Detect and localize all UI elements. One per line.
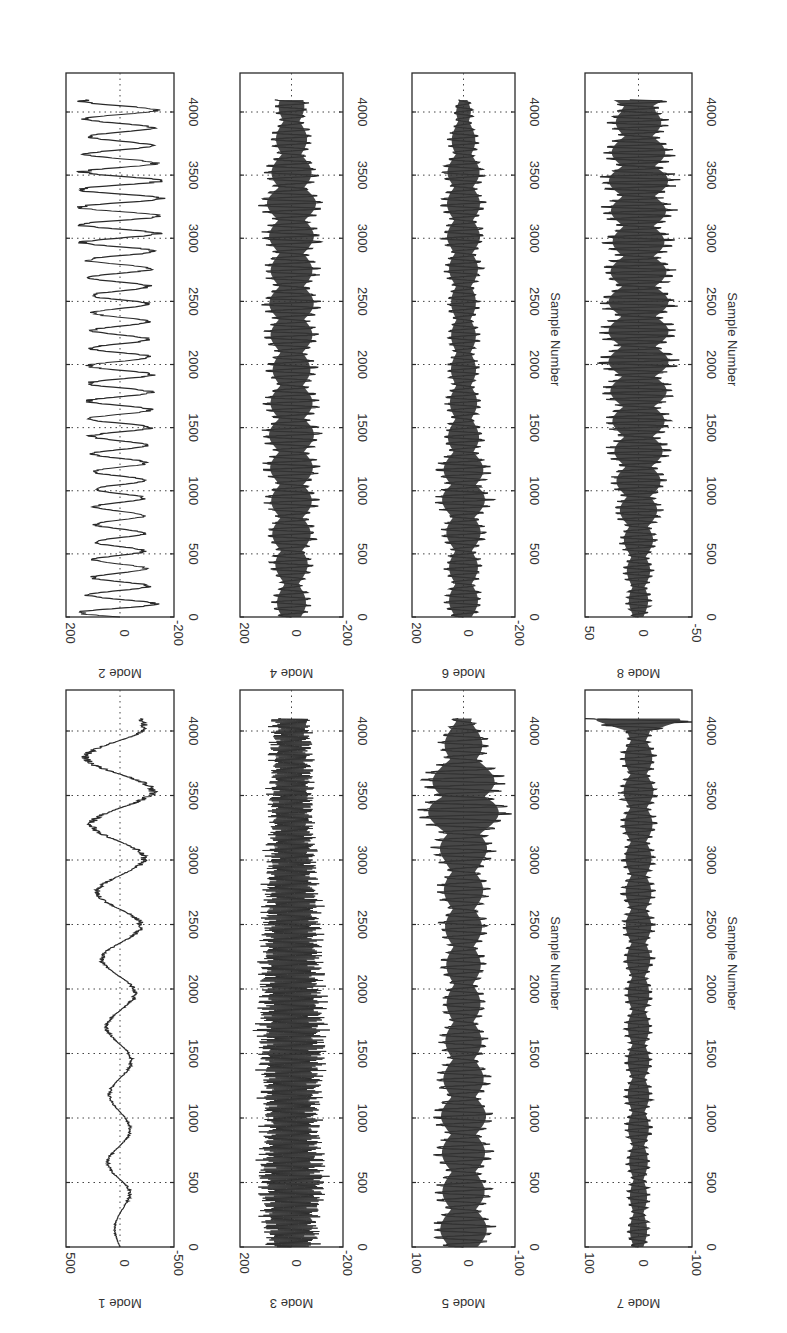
x-tick-label: 500 — [186, 543, 201, 565]
x-tick-label: 1500 — [355, 1039, 370, 1068]
mode-label: Mode 1 — [98, 1296, 141, 1311]
x-tick-label: 0 — [355, 1243, 370, 1250]
x-tick-label: 0 — [527, 613, 542, 620]
x-tick-label: 0 — [186, 613, 201, 620]
x-tick-label: 4000 — [527, 98, 542, 127]
x-tick-label: 4000 — [186, 98, 201, 127]
x-tick-label: 3500 — [527, 781, 542, 810]
x-tick-label: 3500 — [704, 781, 719, 810]
y-tick-label: -50 — [689, 624, 704, 643]
x-tick-label: 0 — [355, 613, 370, 620]
subplot-mode-2: 05001000150020002500300035004000-2000200… — [63, 73, 201, 681]
x-tick-label: 3500 — [527, 161, 542, 190]
x-tick-label: 4000 — [704, 717, 719, 746]
subplot-mode-1: 05001000150020002500300035004000-5000500… — [63, 690, 201, 1311]
x-tick-label: 0 — [704, 613, 719, 620]
x-tick-label: 3000 — [704, 846, 719, 875]
y-tick-label: 0 — [461, 629, 476, 636]
x-tick-label: 2000 — [186, 975, 201, 1004]
y-tick-label: 0 — [289, 629, 304, 636]
y-tick-label: 200 — [409, 622, 424, 644]
x-tick-label: 3000 — [186, 846, 201, 875]
y-tick-label: -200 — [340, 620, 355, 646]
x-tick-label: 1500 — [704, 1039, 719, 1068]
mode-decomposition-figure: 05001000150020002500300035004000-5000500… — [0, 0, 787, 1333]
x-tick-label: 2000 — [355, 975, 370, 1004]
x-tick-label: 500 — [704, 1172, 719, 1194]
x-tick-label: 3500 — [355, 781, 370, 810]
mode-label: Mode 7 — [617, 1296, 660, 1311]
x-tick-label: 3000 — [527, 224, 542, 253]
x-tick-label: 2500 — [704, 910, 719, 939]
x-tick-label: 500 — [527, 1172, 542, 1194]
x-tick-label: 1500 — [527, 1039, 542, 1068]
x-tick-label: 500 — [186, 1172, 201, 1194]
y-tick-label: -200 — [171, 620, 186, 646]
x-tick-label: 500 — [355, 543, 370, 565]
x-tick-label: 1500 — [186, 413, 201, 442]
x-tick-label: 1000 — [527, 476, 542, 505]
x-tick-label: 3500 — [186, 781, 201, 810]
x-tick-label: 2500 — [186, 910, 201, 939]
x-tick-label: 1000 — [186, 476, 201, 505]
y-tick-label: 0 — [117, 629, 132, 636]
x-tick-label: 2500 — [527, 910, 542, 939]
x-tick-label: 4000 — [704, 98, 719, 127]
y-tick-label: 100 — [409, 1252, 424, 1274]
y-tick-label: 200 — [237, 1252, 252, 1274]
x-tick-label: 1000 — [704, 1104, 719, 1133]
x-tick-label: 3500 — [355, 161, 370, 190]
x-tick-label: 1000 — [527, 1104, 542, 1133]
y-tick-label: 0 — [636, 629, 651, 636]
subplot-mode-6: 05001000150020002500300035004000-2000200… — [409, 73, 542, 681]
subplot-mode-8: 05001000150020002500300035004000-50050Mo… — [582, 73, 740, 681]
mode-label: Mode 6 — [442, 666, 485, 681]
x-axis-label: Sample Number — [548, 292, 563, 387]
mode-label: Mode 5 — [442, 1296, 485, 1311]
y-tick-label: -100 — [512, 1250, 527, 1276]
subplot-mode-5: 05001000150020002500300035004000-1000100… — [409, 690, 542, 1311]
y-tick-label: 0 — [289, 1259, 304, 1266]
y-tick-label: 50 — [582, 626, 597, 640]
x-tick-label: 2500 — [527, 287, 542, 316]
x-axis-label: Sample Number — [725, 292, 740, 387]
y-tick-label: 0 — [461, 1259, 476, 1266]
x-tick-label: 0 — [186, 1243, 201, 1250]
y-tick-label: 500 — [63, 1252, 78, 1274]
x-tick-label: 1000 — [355, 476, 370, 505]
x-tick-label: 2000 — [527, 350, 542, 379]
mode-label: Mode 8 — [617, 666, 660, 681]
x-tick-label: 3500 — [186, 161, 201, 190]
x-tick-label: 2000 — [355, 350, 370, 379]
x-tick-label: 1000 — [704, 476, 719, 505]
mode-label: Mode 2 — [98, 666, 141, 681]
mode-label: Mode 4 — [270, 666, 313, 681]
x-tick-label: 4000 — [186, 717, 201, 746]
x-tick-label: 1000 — [186, 1104, 201, 1133]
x-tick-label: 500 — [355, 1172, 370, 1194]
x-tick-label: 3000 — [186, 224, 201, 253]
x-tick-label: 2000 — [527, 975, 542, 1004]
subplot-mode-7: 05001000150020002500300035004000-1000100… — [582, 690, 740, 1311]
x-tick-label: 0 — [527, 1243, 542, 1250]
x-tick-label: 4000 — [527, 717, 542, 746]
x-tick-label: 0 — [704, 1243, 719, 1250]
y-tick-label: 0 — [117, 1259, 132, 1266]
x-tick-label: 3500 — [704, 161, 719, 190]
x-tick-label: 1500 — [527, 413, 542, 442]
x-tick-label: 2500 — [186, 287, 201, 316]
x-tick-label: 1500 — [704, 413, 719, 442]
x-tick-label: 500 — [527, 543, 542, 565]
x-axis-label: Sample Number — [548, 916, 563, 1011]
x-tick-label: 3000 — [527, 846, 542, 875]
x-tick-label: 2500 — [355, 910, 370, 939]
x-tick-label: 2000 — [704, 975, 719, 1004]
x-tick-label: 1500 — [355, 413, 370, 442]
subplot-mode-3: 05001000150020002500300035004000-2000200… — [237, 690, 370, 1311]
x-tick-label: 4000 — [355, 98, 370, 127]
y-tick-label: 100 — [582, 1252, 597, 1274]
x-tick-label: 2000 — [704, 350, 719, 379]
y-tick-label: -200 — [340, 1250, 355, 1276]
y-tick-label: 200 — [237, 622, 252, 644]
x-tick-label: 2000 — [186, 350, 201, 379]
